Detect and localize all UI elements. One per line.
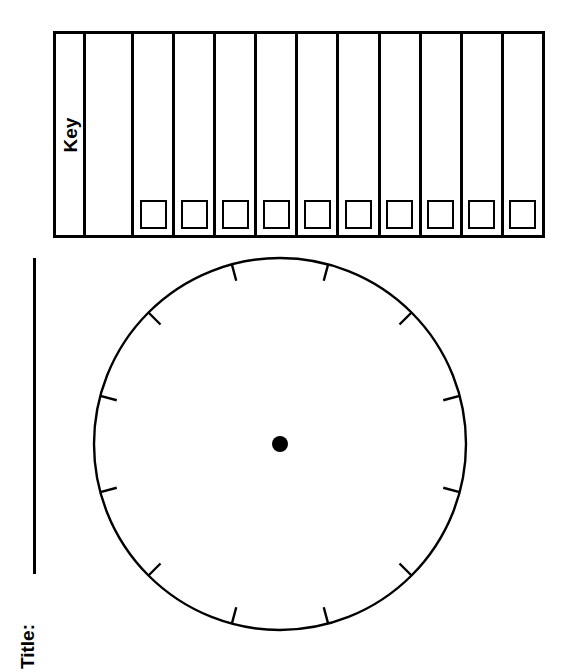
key-column-entry-8[interactable] — [381, 34, 422, 235]
key-column-entry-9[interactable] — [422, 34, 463, 235]
key-column-entry-5[interactable] — [257, 34, 298, 235]
key-column-entry-4[interactable] — [216, 34, 257, 235]
key-color-swatch-11[interactable] — [509, 200, 536, 229]
key-color-swatch-5[interactable] — [263, 200, 290, 229]
key-color-swatch-10[interactable] — [468, 200, 495, 229]
title-label: Title: — [18, 601, 37, 672]
key-column-entry-2[interactable] — [134, 34, 175, 235]
key-column-entry-7[interactable] — [339, 34, 380, 235]
key-color-swatch-3[interactable] — [181, 200, 208, 229]
title-write-in-rule[interactable] — [33, 258, 36, 574]
key-color-swatch-8[interactable] — [386, 200, 413, 229]
pie-center-dot — [272, 436, 288, 452]
key-color-swatch-4[interactable] — [222, 200, 249, 229]
key-column-blank-1 — [86, 34, 134, 235]
pie-chart-svg — [0, 248, 578, 658]
title-block: Title: — [6, 258, 50, 658]
key-color-swatch-7[interactable] — [345, 200, 372, 229]
key-column-entry-10[interactable] — [463, 34, 504, 235]
key-legend-table: Key — [53, 31, 545, 238]
key-label-text: Key — [60, 117, 79, 152]
key-column-entry-6[interactable] — [298, 34, 339, 235]
pie-chart-group — [94, 258, 466, 630]
key-column-entry-3[interactable] — [175, 34, 216, 235]
key-color-swatch-2[interactable] — [140, 200, 167, 229]
key-color-swatch-6[interactable] — [304, 200, 331, 229]
worksheet-canvas: Key Title: — [0, 0, 578, 672]
pie-chart-area — [0, 248, 578, 658]
key-column-label-0: Key — [56, 34, 86, 235]
key-color-swatch-9[interactable] — [427, 200, 454, 229]
key-column-entry-11[interactable] — [504, 34, 542, 235]
